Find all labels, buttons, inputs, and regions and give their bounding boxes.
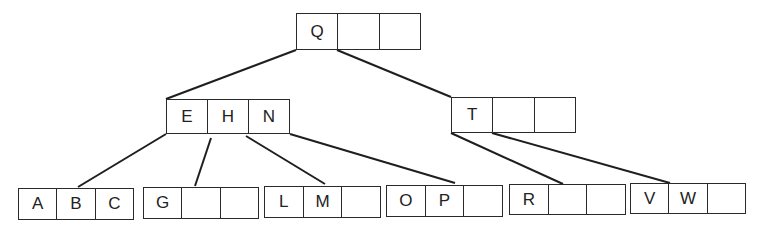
edge-ehn-to-op (290, 134, 455, 183)
key-cell: C (96, 189, 133, 219)
edge-ehn-to-abc (78, 134, 166, 187)
key-cell: A (19, 189, 57, 219)
key-cell: V (631, 184, 669, 213)
key-cell (182, 188, 220, 218)
key-cell: P (426, 186, 465, 216)
edge-ehn-to-g (195, 138, 211, 186)
tree-node-r: R (509, 184, 626, 215)
key-cell: W (669, 184, 707, 213)
tree-node-g: G (143, 187, 259, 219)
edge-t-to-r (451, 133, 563, 184)
key-cell: E (167, 100, 208, 133)
key-cell (221, 188, 258, 218)
edge-root-to-ehn (166, 50, 296, 99)
key-cell: G (144, 188, 182, 218)
b-tree-diagram: QEHNTABCGLMOPRVW (0, 0, 759, 231)
key-cell: T (452, 98, 493, 132)
key-cell (342, 187, 380, 217)
key-cell: Q (297, 14, 338, 49)
tree-node-ehn: EHN (166, 99, 290, 134)
key-cell: B (57, 189, 95, 219)
key-cell (493, 98, 534, 132)
edge-t-to-vw (492, 133, 670, 183)
tree-node-t: T (451, 97, 576, 133)
key-cell (535, 98, 575, 132)
key-cell: L (265, 187, 304, 217)
key-cell: N (249, 100, 289, 133)
key-cell (464, 186, 502, 216)
edge-ehn-to-lm (246, 136, 325, 184)
tree-node-root: Q (296, 13, 421, 50)
key-cell (380, 14, 420, 49)
key-cell: O (387, 186, 426, 216)
key-cell (338, 14, 379, 49)
tree-node-vw: VW (630, 183, 746, 214)
key-cell: M (304, 187, 343, 217)
key-cell (549, 185, 588, 214)
key-cell (587, 185, 625, 214)
key-cell (708, 184, 745, 213)
tree-node-lm: LM (264, 186, 381, 218)
key-cell: R (510, 185, 549, 214)
tree-node-op: OP (386, 185, 503, 217)
tree-node-abc: ABC (18, 188, 134, 220)
key-cell: H (208, 100, 249, 133)
edge-root-to-t (337, 50, 451, 97)
